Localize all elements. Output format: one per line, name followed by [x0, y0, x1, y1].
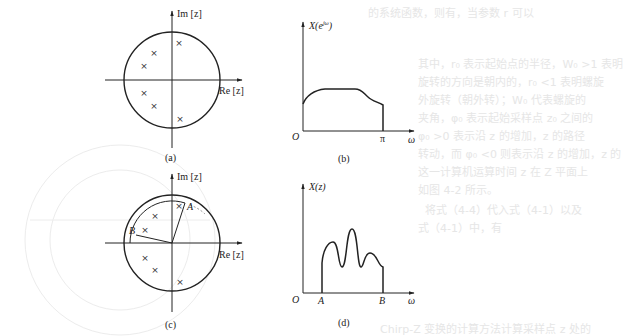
pole-marker: ×	[176, 277, 184, 287]
panel-b-y-label-close: )	[329, 20, 332, 31]
panel-c-radius-to-B	[136, 235, 172, 243]
panel-d-origin-label: O	[292, 295, 299, 305]
panel-d-x-axis-label: ω	[408, 296, 415, 306]
pole-marker: ×	[151, 211, 159, 221]
pole-marker: ×	[140, 61, 148, 71]
pole-marker: ×	[176, 114, 184, 124]
panel-b-pi-tick: π	[380, 134, 385, 144]
panel-a-z-plane: × × × × × ×	[105, 11, 242, 148]
pole-marker: ×	[151, 265, 159, 275]
pole-marker: ×	[141, 253, 149, 263]
panel-c-z-plane: × × × × × ×	[105, 174, 242, 312]
pole-marker: ×	[141, 225, 149, 235]
panel-d-y-axis-label: X(z)	[309, 182, 326, 192]
pole-marker: ×	[175, 38, 183, 48]
panel-d-tick-A: A	[318, 296, 324, 306]
pole-marker: ×	[140, 88, 148, 98]
panel-a-caption: (a)	[165, 153, 176, 163]
panel-a-real-axis-label: Re [z]	[219, 86, 244, 96]
panel-a-poles: × × × × × ×	[140, 38, 184, 124]
pole-marker: ×	[175, 201, 183, 211]
panel-b-origin-label: O	[292, 132, 299, 142]
panel-a-imag-axis-label: Im [z]	[177, 9, 202, 19]
panel-d-tick-B: B	[379, 296, 385, 306]
panel-c-caption: (c)	[165, 320, 176, 330]
panel-d-caption: (d)	[338, 318, 350, 328]
panel-b-magnitude-curve	[303, 89, 383, 131]
panel-b-y-axis-label: X(ejω)	[309, 20, 332, 31]
pole-marker: ×	[150, 101, 158, 111]
panel-b-frequency-response	[303, 22, 414, 131]
panel-c-imag-axis-label: Im [z]	[177, 172, 202, 182]
panel-b-x-axis-label: ω	[408, 135, 415, 145]
panel-c-real-axis-label: Re [z]	[219, 250, 244, 260]
panel-b-y-label-base: X(e	[309, 20, 323, 31]
panel-c-poles: × × × × × ×	[141, 201, 184, 287]
panel-c-arc-start-label: A	[187, 202, 193, 212]
panel-d-spectrum-curve	[322, 229, 383, 293]
panel-b-caption: (b)	[338, 154, 350, 164]
panel-d-chirp-spectrum	[303, 184, 414, 293]
pole-marker: ×	[150, 48, 158, 58]
panel-c-arc-end-label: B	[129, 226, 135, 236]
